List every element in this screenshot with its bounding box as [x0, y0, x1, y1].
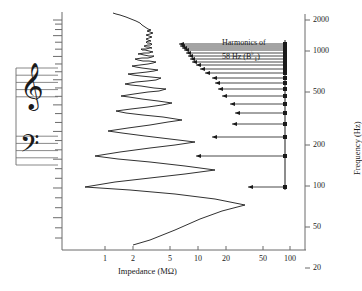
harmonic-arrow-head [200, 67, 205, 71]
treble-clef-icon: 𝄞 [20, 62, 44, 111]
harmonic-marker [200, 67, 287, 71]
fundamental-frequency-value: 58 [222, 52, 230, 61]
y-axis-ticks [305, 14, 310, 268]
harmonic-dot [283, 94, 287, 98]
x-tick-label: 10 [188, 254, 208, 263]
harmonic-arrow-head [235, 111, 240, 115]
y-tick-label: 20 [313, 263, 321, 272]
note-paren-close: ) [257, 52, 260, 61]
y-tick-label: 50 [313, 222, 321, 231]
harmonics-annotation: Harmonics of 58 Hz (B♭1) [222, 38, 266, 64]
harmonic-arrow-head [215, 81, 220, 85]
harmonics-annotation-line1: Harmonics of [222, 38, 266, 48]
harmonic-marker [222, 94, 287, 98]
grand-staff: 𝄞𝄢 [16, 62, 58, 165]
harmonic-dot [283, 102, 287, 106]
harmonic-dot [283, 87, 287, 91]
x-tick-label: 20 [216, 254, 236, 263]
bass-clef-icon: 𝄢 [20, 129, 39, 164]
harmonic-marker [196, 154, 287, 158]
harmonic-dot [283, 135, 287, 139]
x-tick-label: 5 [160, 254, 180, 263]
harmonic-arrow-head [212, 76, 217, 80]
harmonic-arrow-head [232, 122, 237, 126]
y-tick-label: 1000 [313, 46, 329, 55]
harmonic-arrow-head [205, 71, 210, 75]
harmonics-annotation-line2: 58 Hz (B♭1) [222, 48, 266, 64]
harmonic-marker [212, 76, 287, 80]
harmonic-dot [283, 81, 287, 85]
harmonic-dot [283, 71, 287, 75]
x-tick-label: 1 [95, 254, 115, 263]
harmonic-marker [218, 87, 287, 91]
harmonic-dot [283, 154, 287, 158]
x-tick-label: 50 [253, 254, 273, 263]
x-tick-label: 2 [123, 254, 143, 263]
harmonic-dot [283, 76, 287, 80]
harmonic-dot [283, 185, 287, 189]
y-axis-title: Frequency (Hz) [352, 121, 362, 175]
harmonic-arrow-head [196, 154, 201, 158]
harmonic-marker [230, 102, 287, 106]
harmonic-marker [235, 111, 287, 115]
y-tick-label: 200 [313, 140, 325, 149]
harmonic-dot [283, 42, 287, 46]
harmonic-marker [215, 81, 287, 85]
harmonic-marker [232, 122, 287, 126]
y-tick-label: 100 [313, 181, 325, 190]
y-tick-label: 500 [313, 87, 325, 96]
harmonic-marker [248, 185, 287, 189]
x-tick-label: 100 [280, 254, 300, 263]
harmonic-dot [283, 111, 287, 115]
harmonic-arrow-head [230, 102, 235, 106]
y-tick-label: 2000 [313, 15, 329, 24]
harmonic-dot [283, 122, 287, 126]
harmonic-dot [283, 67, 287, 71]
harmonic-arrow-head [212, 135, 217, 139]
harmonic-marker [212, 135, 287, 139]
pitch-axis [53, 20, 62, 238]
fundamental-frequency-unit: Hz [232, 52, 241, 61]
harmonic-arrow-head [218, 87, 223, 91]
x-axis-title: Impedance (MΩ) [118, 266, 177, 276]
x-axis-ticks [105, 246, 290, 250]
harmonic-arrow-head [248, 185, 253, 189]
harmonic-arrow-head [222, 94, 227, 98]
harmonic-marker [205, 71, 287, 75]
